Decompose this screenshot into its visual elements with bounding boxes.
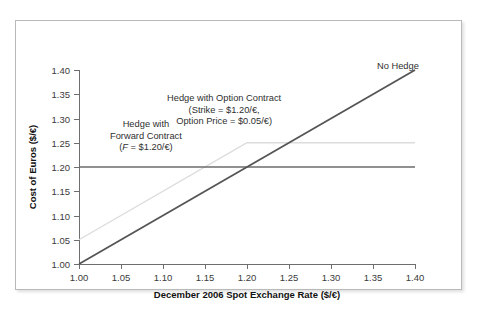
- y-tick-label: 1.20: [52, 162, 71, 173]
- x-axis-title: December 2006 Spot Exchange Rate ($/€): [154, 289, 340, 300]
- x-tick-label: 1.40: [406, 272, 425, 283]
- x-tick-label: 1.30: [322, 272, 341, 283]
- x-tick-label: 1.15: [196, 272, 215, 283]
- annotation-forward-line3: (F = $1.20/€): [110, 142, 182, 154]
- x-tick-label: 1.35: [364, 272, 383, 283]
- annotation-option-line1: Hedge with Option Contract: [167, 93, 281, 105]
- x-tick-label: 1.05: [112, 272, 131, 283]
- y-tick-label: 1.05: [52, 234, 71, 245]
- x-tick-label: 1.10: [154, 272, 173, 283]
- y-tick-label: 1.25: [52, 137, 71, 148]
- y-tick-label: 1.40: [52, 65, 71, 76]
- x-tick-mark: [289, 264, 290, 269]
- annotation-option-line3: Option Price = $0.05/€): [167, 116, 281, 128]
- figure-panel: Cost of Euros ($/€) December 2006 Spot E…: [15, 20, 462, 290]
- x-tick-mark: [247, 264, 248, 269]
- y-tick-label: 1.00: [52, 259, 71, 270]
- x-tick-mark: [205, 264, 206, 269]
- y-tick-label: 1.35: [52, 89, 71, 100]
- annotation-forward-value: = $1.20/€): [128, 142, 173, 152]
- y-tick-label: 1.30: [52, 113, 71, 124]
- x-tick-mark: [121, 264, 122, 269]
- series-option-contract: [79, 143, 415, 240]
- annotation-option-contract: Hedge with Option Contract (Strike = $1.…: [167, 93, 281, 128]
- y-axis-title: Cost of Euros ($/€): [27, 125, 38, 209]
- annotation-no-hedge-label: No Hedge: [377, 61, 419, 73]
- x-tick-mark: [163, 264, 164, 269]
- y-tick-label: 1.15: [52, 186, 71, 197]
- annotation-forward-line2: Forward Contract: [110, 131, 182, 143]
- annotation-option-line2: (Strike = $1.20/€,: [167, 105, 281, 117]
- x-tick-mark: [373, 264, 374, 269]
- x-tick-mark: [331, 264, 332, 269]
- x-tick-label: 1.20: [238, 272, 257, 283]
- x-tick-label: 1.00: [70, 272, 89, 283]
- x-tick-mark: [415, 264, 416, 269]
- x-tick-label: 1.25: [280, 272, 299, 283]
- y-tick-label: 1.10: [52, 210, 71, 221]
- annotation-no-hedge: No Hedge: [377, 61, 419, 73]
